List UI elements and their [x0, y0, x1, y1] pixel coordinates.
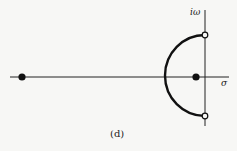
pole-far-left	[18, 73, 25, 80]
real-axis-label: σ	[221, 79, 227, 88]
imaginary-axis-label: iω	[190, 8, 200, 17]
zero-upper	[202, 32, 208, 38]
zero-lower	[202, 113, 208, 119]
pole-near-origin	[192, 73, 199, 80]
figure-caption: (d)	[110, 128, 124, 139]
